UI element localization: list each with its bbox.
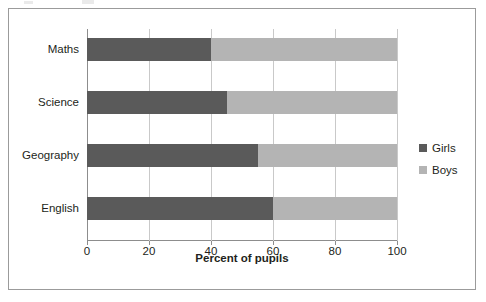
bar-row[interactable]: English: [87, 197, 397, 220]
legend-swatch-icon: [419, 144, 427, 152]
bar-row[interactable]: Maths: [87, 38, 397, 61]
plot-area: MathsScienceGeographyEnglish 02040608010…: [87, 29, 397, 241]
bar-row[interactable]: Geography: [87, 144, 397, 167]
chart-frame: MathsScienceGeographyEnglish 02040608010…: [8, 8, 476, 290]
legend-item-boys[interactable]: Boys: [419, 159, 458, 181]
category-label-maths: Maths: [0, 38, 79, 61]
gridline: [397, 29, 398, 241]
bar-segment-boys[interactable]: [273, 197, 397, 220]
legend-item-girls[interactable]: Girls: [419, 137, 458, 159]
legend-label: Girls: [432, 142, 456, 154]
bar-segment-girls[interactable]: [87, 91, 227, 114]
x-axis-title: Percent of pupils: [87, 252, 397, 264]
chart-legend: GirlsBoys: [419, 137, 458, 181]
scan-artifact-strip: [0, 0, 486, 7]
bar-segment-boys[interactable]: [227, 91, 398, 114]
bar-segment-boys[interactable]: [258, 144, 398, 167]
bar-row[interactable]: Science: [87, 91, 397, 114]
scan-smudge: [82, 0, 94, 4]
scan-smudge: [24, 1, 33, 4]
legend-swatch-icon: [419, 166, 427, 174]
x-axis-line: [87, 240, 397, 241]
category-label-english: English: [0, 197, 79, 220]
category-label-science: Science: [0, 91, 79, 114]
category-label-geography: Geography: [0, 144, 79, 167]
bar-segment-boys[interactable]: [211, 38, 397, 61]
legend-label: Boys: [432, 164, 458, 176]
bar-segment-girls[interactable]: [87, 197, 273, 220]
bar-segment-girls[interactable]: [87, 38, 211, 61]
bar-segment-girls[interactable]: [87, 144, 258, 167]
